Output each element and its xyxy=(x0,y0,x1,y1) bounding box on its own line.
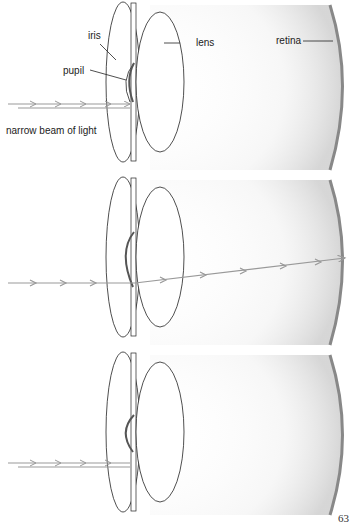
page-number: 63 xyxy=(338,512,349,524)
label-retina: retina xyxy=(276,35,301,46)
label-pupil: pupil xyxy=(63,65,84,76)
panel-bottom xyxy=(8,352,343,515)
label-lens: lens xyxy=(196,37,214,48)
label-beam: narrow beam of light xyxy=(6,125,97,136)
label-iris: iris xyxy=(88,30,101,41)
panel-top xyxy=(8,2,343,170)
panel-middle xyxy=(8,177,345,345)
eye-diagram xyxy=(0,0,351,525)
